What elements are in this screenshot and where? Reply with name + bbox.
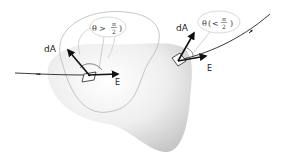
left-E-label: E <box>115 78 120 87</box>
left-field-vector <box>88 74 118 75</box>
left-angle-numerator: π <box>112 20 116 27</box>
right-angle-relation: < <box>212 19 219 28</box>
left-angle-relation: > <box>99 24 106 33</box>
right-angle-close-paren: ) <box>230 19 233 28</box>
left-dA-label: dA <box>44 44 57 54</box>
right-dA-label: dA <box>176 23 189 33</box>
right-theta-symbol: θ <box>202 19 207 28</box>
right-angle-paren: ( <box>208 19 211 28</box>
left-angle-denominator: 2 <box>112 28 116 35</box>
left-angle-close-paren: ) <box>119 24 122 33</box>
right-angle-denominator: 2 <box>222 23 226 30</box>
right-E-label: E <box>207 64 212 73</box>
closed-surface <box>48 43 192 152</box>
right-angle-numerator: π <box>222 15 226 22</box>
flux-diagram: θ > π 2 ) dA E θ ( < π 2 ) dA E <box>0 0 286 161</box>
right-callout-pointer <box>193 32 210 53</box>
left-theta-symbol: θ <box>92 24 97 33</box>
